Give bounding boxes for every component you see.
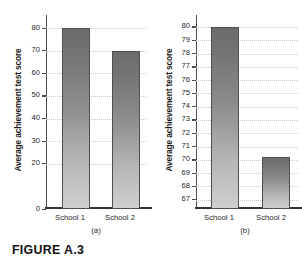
y-axis-tick	[192, 199, 196, 200]
y-tick-label: 80	[182, 21, 190, 31]
y-axis-tick	[192, 80, 196, 81]
y-tick-label: 73	[182, 114, 190, 124]
y-axis-line-b	[196, 15, 197, 209]
y-tick-label: 69	[182, 168, 190, 178]
y-axis-tick	[192, 66, 196, 67]
y-axis-title-a: Average achievement test score	[12, 12, 25, 208]
figure-caption: FIGURE A.3	[12, 243, 84, 257]
x-tick-label-b-0: School 1	[197, 213, 241, 223]
figure-a3: Average achievement test score 807060504…	[0, 0, 302, 263]
y-tick-label: 71	[182, 141, 190, 151]
gridline	[46, 28, 146, 29]
y-axis-tick	[192, 173, 196, 174]
y-axis-tick	[42, 50, 46, 51]
y-tick-label: 30	[32, 136, 40, 146]
y-axis-tick	[192, 159, 196, 160]
y-tick-label: 76	[182, 75, 190, 85]
y-tick-label: 68	[182, 181, 190, 191]
y-tick-label: 70	[32, 45, 40, 55]
y-axis-tick	[192, 186, 196, 187]
y-axis-title-b: Average achievement test score	[163, 12, 176, 208]
y-axis-tick	[192, 119, 196, 120]
y-axis-tick	[42, 163, 46, 164]
y-axis-tick	[192, 106, 196, 107]
x-tick-label-a-1: School 2	[98, 213, 142, 223]
y-tick-label: 75	[182, 88, 190, 98]
panel-label-a: (a)	[81, 226, 111, 236]
y-axis-tick	[192, 133, 196, 134]
y-axis-tick	[42, 73, 46, 74]
y-tick-label: 67	[182, 194, 190, 204]
y-axis-tick	[42, 95, 46, 96]
y-tick-label: 79	[182, 35, 190, 45]
y-tick-label: 80	[32, 23, 40, 33]
y-axis-tick	[192, 93, 196, 94]
panel-label-b: (b)	[230, 226, 260, 236]
y-axis-line-a	[46, 15, 47, 209]
bar-school-2	[262, 157, 290, 209]
y-tick-label: 77	[182, 61, 190, 71]
y-axis-tick	[42, 209, 46, 210]
y-tick-label: 60	[32, 68, 40, 78]
bar-school-1	[62, 28, 90, 209]
y-axis-tick	[192, 53, 196, 54]
y-axis-tick	[42, 141, 46, 142]
bar-school-2	[112, 51, 140, 209]
plot-area-b: 8079787776757473727170696867	[196, 19, 297, 209]
plot-area-a: 807060504030200	[46, 19, 146, 209]
x-tick-label-a-0: School 1	[48, 213, 92, 223]
y-axis-tick	[192, 146, 196, 147]
y-tick-label: 70	[182, 154, 190, 164]
y-tick-label: 0	[36, 204, 40, 214]
y-tick-label: 72	[182, 128, 190, 138]
y-tick-label: 50	[32, 90, 40, 100]
y-tick-label: 40	[32, 113, 40, 123]
y-tick-label: 78	[182, 48, 190, 58]
x-tick-label-b-1: School 2	[249, 213, 293, 223]
y-axis-tick	[42, 118, 46, 119]
y-axis-tick	[42, 28, 46, 29]
chart-panel-b: Average achievement test score 807978777…	[151, 0, 302, 238]
bar-school-1	[211, 27, 239, 209]
y-axis-tick	[192, 40, 196, 41]
y-axis-tick	[192, 26, 196, 27]
chart-panel-a: Average achievement test score 807060504…	[0, 0, 151, 238]
y-tick-label: 20	[32, 158, 40, 168]
y-tick-label: 74	[182, 101, 190, 111]
